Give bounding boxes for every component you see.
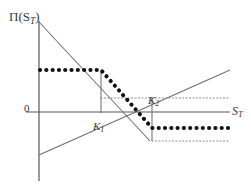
y-axis-label-close: ) bbox=[35, 9, 39, 24]
combined-payoff-curve bbox=[40, 70, 230, 128]
strike-2-label-subscript: 2 bbox=[155, 99, 159, 108]
strike-2-label: K2 bbox=[148, 95, 159, 108]
strike-1-label-subscript: 1 bbox=[100, 125, 104, 134]
origin-label: 0 bbox=[24, 103, 30, 114]
x-axis-label: ST bbox=[232, 105, 243, 119]
y-axis-label: Π(ST) bbox=[9, 10, 40, 26]
x-axis-label-subscript: T bbox=[238, 109, 243, 119]
payoff-diagram-figure: Π(ST) 0 K1 K2 ST bbox=[0, 0, 251, 189]
payoff-plot-canvas bbox=[0, 0, 251, 189]
strike-1-label: K1 bbox=[93, 121, 104, 134]
y-axis-label-main: Π(S bbox=[9, 9, 30, 24]
